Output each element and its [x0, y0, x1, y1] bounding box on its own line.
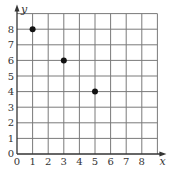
y-tick-labels: 012345678: [8, 24, 14, 159]
x-tick-label: 3: [61, 156, 67, 167]
x-tick-label: 7: [123, 156, 129, 167]
x-tick-label: 6: [107, 156, 113, 167]
x-axis-label: x: [159, 155, 166, 168]
y-tick-label: 3: [8, 102, 14, 113]
y-tick-label: 0: [8, 148, 14, 159]
axes: [15, 5, 167, 157]
data-point: [30, 26, 36, 32]
x-tick-label: 1: [29, 156, 35, 167]
data-point: [61, 57, 67, 63]
y-tick-label: 2: [8, 117, 14, 128]
y-tick-label: 6: [8, 55, 14, 66]
y-tick-label: 5: [8, 71, 14, 82]
scatter-chart: 012345678 012345678 x y: [0, 0, 169, 172]
y-tick-label: 4: [8, 86, 14, 97]
data-point: [92, 89, 98, 95]
x-tick-label: 4: [76, 156, 82, 167]
y-axis-label: y: [20, 3, 28, 16]
y-axis-arrow-icon: [15, 5, 20, 12]
x-tick-labels: 012345678: [14, 156, 145, 167]
x-tick-label: 2: [45, 156, 51, 167]
y-tick-label: 8: [8, 24, 14, 35]
x-tick-label: 8: [139, 156, 145, 167]
y-tick-label: 7: [8, 39, 14, 50]
grid-lines: [17, 14, 157, 154]
y-tick-label: 1: [8, 133, 14, 144]
x-tick-label: 0: [14, 156, 20, 167]
x-tick-label: 5: [92, 156, 98, 167]
